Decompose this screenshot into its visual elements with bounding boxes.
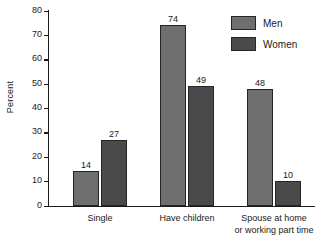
y-tick-mark: [44, 206, 48, 207]
y-axis-line: [48, 10, 49, 207]
x-axis-label: Spouse at home or working part time: [214, 212, 329, 236]
y-tick-mark: [44, 181, 48, 182]
y-tick-label: 40: [32, 102, 42, 113]
legend: Men Women: [231, 16, 297, 58]
bar-value-label: 74: [168, 14, 178, 24]
y-axis-title: Percent: [5, 67, 15, 127]
y-tick-label: 60: [32, 53, 42, 64]
bar-value-label: 48: [255, 78, 265, 88]
bar-value-label: 14: [81, 160, 91, 170]
y-tick-mark: [44, 108, 48, 109]
bar-value-label: 27: [109, 129, 119, 139]
bar-women-1: 49: [188, 86, 214, 205]
bar-women-2: 10: [275, 181, 301, 205]
y-tick-label: 20: [32, 151, 42, 162]
legend-item-women: Women: [231, 37, 297, 51]
y-tick-label: 80: [32, 5, 42, 16]
bar-group: 7449: [160, 11, 214, 206]
y-tick-mark: [44, 11, 48, 12]
bar-men-1: 74: [160, 25, 186, 205]
y-tick-label: 50: [32, 78, 42, 89]
legend-item-men: Men: [231, 16, 297, 30]
y-tick-label: 0: [37, 200, 42, 211]
bar-value-label: 10: [283, 170, 293, 180]
y-tick-mark: [44, 84, 48, 85]
bar-women-0: 27: [101, 140, 127, 206]
legend-swatch-men: [231, 16, 256, 30]
y-tick-mark: [44, 157, 48, 158]
y-tick-label: 30: [32, 126, 42, 137]
y-tick-mark: [44, 132, 48, 133]
bar-men-0: 14: [73, 171, 99, 205]
bar-value-label: 49: [196, 75, 206, 85]
legend-swatch-women: [231, 37, 256, 51]
y-tick-label: 10: [32, 175, 42, 186]
bar-men-2: 48: [247, 89, 273, 206]
legend-label-women: Women: [263, 39, 297, 50]
y-tick-label: 70: [32, 29, 42, 40]
y-tick-mark: [44, 35, 48, 36]
bar-chart: Percent 01020304050607080 142774494810 S…: [0, 0, 329, 246]
legend-label-men: Men: [263, 18, 282, 29]
y-tick-mark: [44, 59, 48, 60]
bar-group: 1427: [73, 11, 127, 206]
x-axis-line: [48, 206, 315, 207]
